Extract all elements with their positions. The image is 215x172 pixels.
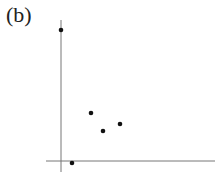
data-points [59, 28, 123, 166]
data-point [89, 111, 94, 116]
data-point [101, 129, 106, 134]
data-point [70, 161, 75, 166]
scatter-plot [0, 0, 215, 172]
data-point [118, 122, 123, 127]
data-point [59, 28, 64, 33]
